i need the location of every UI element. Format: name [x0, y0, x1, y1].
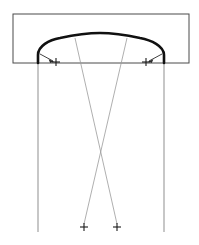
lower-right-center-mark: [113, 223, 121, 231]
diagonal-line-left-to-right: [75, 38, 117, 224]
upper-left-center-mark: [52, 58, 60, 66]
figure-root: [0, 0, 199, 245]
left-leader-line: [40, 54, 53, 61]
lower-left-center-mark: [80, 223, 88, 231]
diagonal-line-right-to-left: [84, 38, 127, 224]
left-radius-leader: [40, 54, 54, 63]
right-radius-leader: [148, 54, 162, 63]
right-leader-line: [149, 54, 162, 61]
enclosing-rectangle: [13, 14, 189, 63]
arch-profile-curve: [38, 33, 164, 63]
upper-right-center-mark: [142, 58, 150, 66]
technical-drawing-canvas: [0, 0, 199, 245]
